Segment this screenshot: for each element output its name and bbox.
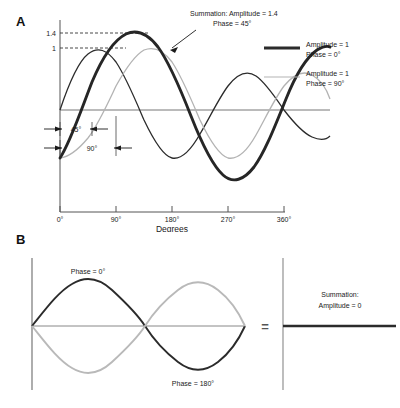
legend-label-phase-90-line2: Phase = 90° <box>306 80 345 87</box>
y-tick-label-1.4: 1.4 <box>46 30 56 37</box>
panel-b-equals-sign: = <box>261 319 269 334</box>
y-tick-label-1: 1 <box>52 45 56 52</box>
figure-container: A B 0° 90° 180° 270° 360° Degrees 1.4 1 <box>0 0 400 408</box>
phase-90-arrowhead-left <box>55 146 62 151</box>
x-tick-label-90: 90° <box>111 216 122 223</box>
legend-label-phase-0-line2: Phase = 0° <box>306 51 341 58</box>
x-tick-label-180: 180° <box>165 216 180 223</box>
phase-marker-90: 90° <box>44 116 132 156</box>
summation-annotation-leader <box>172 30 196 48</box>
legend-label-phase-0-line1: Amplitude = 1 <box>306 41 349 49</box>
x-tick-label-360: 360° <box>277 216 292 223</box>
panel-a-chart: 0° 90° 180° 270° 360° Degrees 1.4 1 45° <box>0 0 400 232</box>
x-tick-label-0: 0° <box>57 216 64 223</box>
phase-45-arrowhead-left <box>55 127 62 132</box>
panel-b-result-label-line1: Summation: <box>321 291 358 298</box>
panel-b-chart: Phase = 0° Phase = 180° = Summation: Amp… <box>0 240 400 408</box>
panel-b-label-phase-0: Phase = 0° <box>71 268 106 275</box>
summation-annotation-arrowhead <box>170 47 178 53</box>
wave-summation <box>60 32 330 180</box>
panel-b-label-phase-180: Phase = 180° <box>172 380 215 387</box>
x-tick-label-270: 270° <box>221 216 236 223</box>
summation-annotation-line1: Summation: Amplitude = 1.4 <box>190 10 278 18</box>
summation-annotation-line2: Phase = 45° <box>213 20 252 27</box>
panel-a-x-axis-title: Degrees <box>156 224 188 232</box>
phase-90-arrowhead-right <box>114 146 121 151</box>
phase-45-label: 45° <box>71 126 82 133</box>
panel-b-wave-phase-180 <box>32 283 245 373</box>
phase-90-label: 90° <box>87 145 98 152</box>
panel-b-result-label-line2: Amplitude = 0 <box>319 302 362 310</box>
panel-b-wave-phase-0 <box>32 279 245 369</box>
panel-a-x-ticks <box>60 206 284 212</box>
legend-label-phase-90-line1: Amplitude = 1 <box>306 70 349 78</box>
panel-a-legend: Amplitude = 1 Phase = 0° Amplitude = 1 P… <box>264 41 349 87</box>
